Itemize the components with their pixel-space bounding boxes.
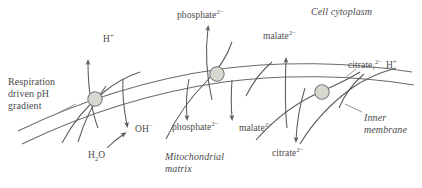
citrate-matrix-charge: 2−: [296, 146, 303, 153]
malate-cytoplasm-label: malate2−: [263, 31, 296, 42]
phosphate-influx-arrow: [231, 80, 232, 118]
inner-membrane-line2: membrane: [364, 124, 407, 136]
citrate-matrix-label: citrate2−: [272, 148, 304, 159]
malate-matrix-text: malate: [239, 123, 265, 133]
malate-matrix-charge: 2−: [265, 121, 272, 128]
phosphate-matrix-text: phosphate: [172, 122, 211, 132]
cell-cytoplasm-label: Cell cytoplasm: [311, 6, 372, 18]
citrate-cytoplasm-label: citrate,2−H+: [348, 60, 397, 71]
malate-cytoplasm-text: malate: [263, 31, 289, 41]
respiration-gradient-label: Respiration driven pH gradient: [8, 76, 55, 111]
malate-efflux-arrow: [285, 60, 287, 128]
hydroxide-arrow: [123, 79, 127, 125]
hydroxide-matrix-label: OH−: [135, 124, 153, 135]
citrate-cotransport-proton-charge: +: [393, 58, 397, 65]
water-matrix-text: H: [88, 150, 95, 160]
malate-cytoplasm-charge: 2−: [289, 29, 296, 36]
membrane-transport-diagram: Cell cytoplasm phosphate2− malate2− H+ c…: [0, 0, 422, 188]
respiration-gradient-line3: gradient: [8, 100, 55, 112]
phosphate-cytoplasm-label: phosphate2−: [177, 10, 224, 21]
respiration-gradient-line2: driven pH: [8, 88, 55, 100]
phosphate-transporter-icon: [210, 67, 224, 81]
mitochondrial-matrix-label: Mitochondrial matrix: [165, 151, 224, 175]
inner-membrane-leader-line: [345, 104, 362, 112]
citrate-influx-arrow: [296, 88, 305, 140]
citrate-cotransport-proton-text: H: [386, 60, 393, 70]
transporter-proteins: [88, 67, 329, 106]
inner-membrane-label: Inner membrane: [364, 112, 407, 136]
mitochondrial-matrix-line1: Mitochondrial: [165, 151, 224, 163]
phosphate-efflux-arrow: [207, 28, 212, 100]
water-to-hydroxide-arrow: [107, 134, 124, 148]
citrate-malate-transporter-icon: [315, 85, 329, 99]
respiration-gradient-line1: Respiration: [8, 76, 55, 88]
phosphate-cytoplasm-text: phosphate: [177, 10, 216, 20]
malate-influx-arrow-left: [186, 79, 189, 118]
proton-cytoplasm-label: H+: [103, 34, 114, 45]
hydroxide-matrix-text: OH: [135, 124, 149, 134]
proton-cytoplasm-text: H: [103, 34, 110, 44]
citrate-matrix-text: citrate: [272, 148, 296, 158]
water-matrix-label: H2O: [88, 150, 105, 161]
inner-membrane-line1: Inner: [364, 112, 407, 124]
mitochondrial-matrix-line2: matrix: [165, 163, 224, 175]
proton-cytoplasm-charge: +: [110, 32, 114, 39]
phosphate-cytoplasm-charge: 2−: [216, 8, 223, 15]
hydroxide-matrix-charge: −: [149, 122, 153, 129]
proton-influx-curve: [62, 72, 140, 143]
malate-matrix-label: malate2−: [239, 123, 272, 134]
citrate-cytoplasm-text: citrate,: [348, 60, 375, 70]
phosphate-matrix-charge: 2−: [211, 120, 218, 127]
water-matrix-tail: O: [98, 150, 105, 160]
phosphate-matrix-label: phosphate2−: [172, 122, 219, 133]
gradient-leader-line: [58, 104, 76, 113]
proton-pump-transporter-icon: [88, 92, 102, 106]
citrate-cytoplasm-charge: 2−: [375, 58, 382, 65]
